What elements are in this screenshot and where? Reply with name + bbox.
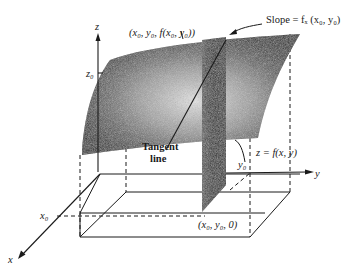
base-box <box>80 174 300 237</box>
z-axis-label: z <box>94 21 99 32</box>
slice-plane <box>202 37 226 212</box>
surface-equation-label: z = f(x, y) <box>255 147 297 159</box>
y-axis-label: y <box>314 168 320 179</box>
x-axis-label: x <box>7 254 13 265</box>
point-on-surface-label: (x₀, y₀, f(x₀, y₀)) <box>129 27 195 39</box>
partial-derivative-diagram: z y x z₀ y₀ x₀ (x₀, y₀, f(x₀, y₀)) Slope… <box>0 0 364 275</box>
z-arrowhead-icon <box>96 33 101 41</box>
base-point-label: (x₀, y₀, 0) <box>198 219 238 231</box>
surface <box>82 34 300 155</box>
z0-tick-label: z₀ <box>85 68 94 79</box>
tangent-label-line1: Tangent <box>142 141 179 152</box>
slope-arrow-icon <box>229 29 237 35</box>
y0-tick-label: y₀ <box>237 159 247 170</box>
tangent-label-line2: line <box>150 153 167 164</box>
y-arrowhead-icon <box>305 170 314 175</box>
x0-tick-label: x₀ <box>39 210 49 221</box>
slope-label: Slope = fₓ (x₀, y₀) <box>266 14 341 26</box>
